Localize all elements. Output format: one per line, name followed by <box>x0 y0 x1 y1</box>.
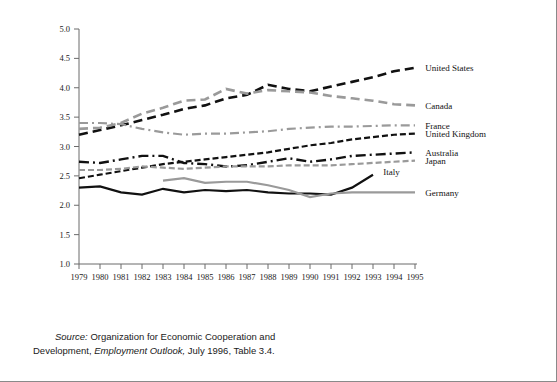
source-publication: Employment Outlook, <box>94 345 185 356</box>
x-tick-label: 1979 <box>71 272 88 282</box>
source-line-2-a: Development, <box>33 345 94 356</box>
x-tick-label: 1983 <box>155 272 172 282</box>
y-tick-label: 4.0 <box>59 83 70 93</box>
series-line-italy <box>79 175 373 195</box>
y-tick-label: 2.5 <box>59 171 70 181</box>
series-line-united-states <box>79 68 415 135</box>
x-tick-label: 1992 <box>344 272 361 282</box>
x-tick-label: 1991 <box>323 272 340 282</box>
y-tick-label: 4.5 <box>59 53 70 63</box>
page-frame: 5.04.54.03.53.02.52.01.51.01979198019811… <box>0 0 557 382</box>
x-tick-label: 1984 <box>176 272 194 282</box>
source-line-1: Organization for Economic Cooperation an… <box>88 331 275 342</box>
x-tick-label: 1982 <box>134 272 151 282</box>
y-tick-label: 1.0 <box>59 259 70 269</box>
series-line-canada <box>79 89 415 129</box>
source-label: Source: <box>55 331 88 342</box>
y-tick-label: 3.5 <box>59 112 70 122</box>
y-tick-label: 5.0 <box>59 24 70 34</box>
y-tick-label: 2.0 <box>59 200 70 210</box>
series-label-canada: Canada <box>425 101 452 111</box>
x-tick-label: 1990 <box>302 272 319 282</box>
series-line-australia <box>79 152 415 166</box>
x-tick-label: 1994 <box>386 272 404 282</box>
series-label-italy: Italy <box>383 167 400 177</box>
series-line-france <box>79 123 415 135</box>
x-tick-label: 1981 <box>113 272 130 282</box>
x-tick-label: 1980 <box>92 272 109 282</box>
x-tick-label: 1985 <box>197 272 214 282</box>
y-tick-label: 1.5 <box>59 230 70 240</box>
series-label-japan: Japan <box>425 156 446 166</box>
series-label-united-states: United States <box>425 63 474 73</box>
series-label-united-kingdom: United Kingdom <box>425 129 486 139</box>
x-tick-label: 1986 <box>218 272 235 282</box>
x-tick-label: 1995 <box>407 272 424 282</box>
x-tick-label: 1989 <box>281 272 298 282</box>
x-tick-label: 1987 <box>239 272 256 282</box>
source-note: Source: Organization for Economic Cooper… <box>33 330 453 357</box>
x-tick-label: 1988 <box>260 272 277 282</box>
x-tick-label: 1993 <box>365 272 382 282</box>
chart-axes <box>79 29 417 264</box>
source-line-2-b: July 1996, Table 3.4. <box>185 345 275 356</box>
y-tick-label: 3.0 <box>59 142 70 152</box>
series-label-germany: Germany <box>425 188 459 198</box>
chart-figure: 5.04.54.03.53.02.52.01.51.01979198019811… <box>0 0 551 372</box>
line-chart: 5.04.54.03.53.02.52.01.51.01979198019811… <box>0 0 551 300</box>
